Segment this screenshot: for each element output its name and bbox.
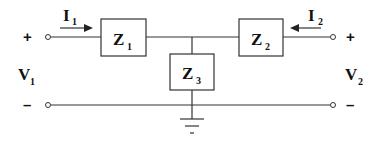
arrow-left-icon <box>290 24 299 32</box>
current-i2: I 2 <box>290 6 323 32</box>
v2-plus-sign: + <box>346 28 355 45</box>
v1-minus-sign: – <box>23 96 31 113</box>
voltage-v1: V 1 <box>18 65 35 87</box>
impedance-z1: Z 1 <box>101 19 146 56</box>
terminal-right-top <box>331 35 336 40</box>
ground-icon <box>180 119 204 133</box>
current-i1: I 1 <box>60 6 93 32</box>
v2-subscript: 2 <box>358 76 363 87</box>
voltage-v2: V 2 <box>345 65 363 87</box>
i2-label: I <box>308 6 315 25</box>
z1-label: Z <box>113 30 124 49</box>
terminal-left-top <box>46 35 51 40</box>
i2-subscript: 2 <box>318 16 323 27</box>
impedance-z3: Z 3 <box>170 54 214 90</box>
i1-label: I <box>63 6 70 25</box>
terminal-left-bottom <box>46 103 51 108</box>
v2-minus-sign: – <box>346 96 354 113</box>
z3-label: Z <box>182 64 193 83</box>
z1-subscript: 1 <box>127 41 132 52</box>
impedance-z2: Z 2 <box>239 19 283 56</box>
v2-label: V <box>345 65 358 84</box>
t-network-diagram: Z 1 Z 2 Z 3 + – + – V 1 V 2 I 1 I 2 <box>0 0 379 144</box>
z3-subscript: 3 <box>196 75 201 86</box>
z2-label: Z <box>251 30 262 49</box>
terminal-right-bottom <box>331 103 336 108</box>
v1-subscript: 1 <box>30 76 35 87</box>
arrow-right-icon <box>84 24 93 32</box>
v1-plus-sign: + <box>23 28 32 45</box>
i1-subscript: 1 <box>72 16 77 27</box>
z2-subscript: 2 <box>265 41 270 52</box>
